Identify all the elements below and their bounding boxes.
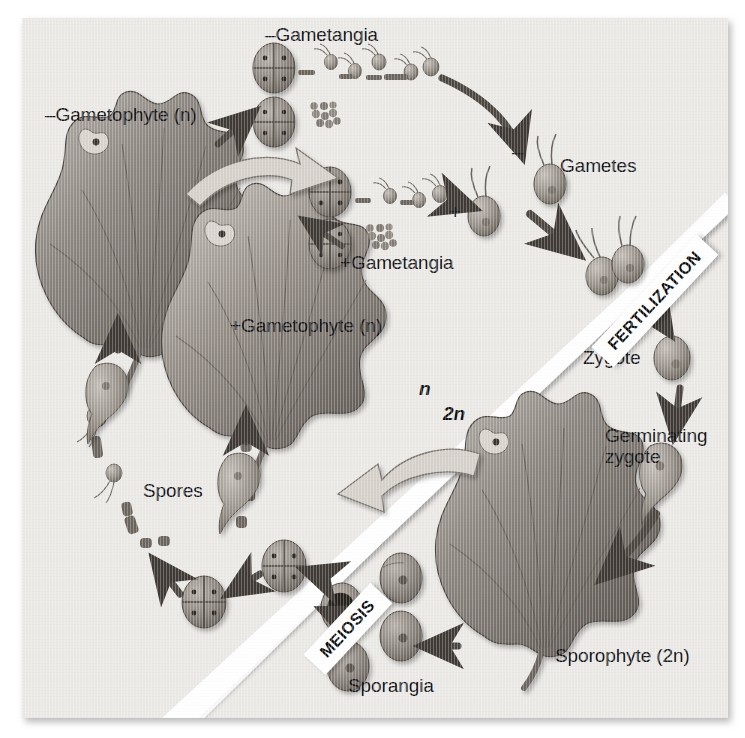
label-minus-gametangia: –Gametangia xyxy=(265,25,378,46)
sign-minus-gamete: – xyxy=(512,140,524,164)
label-germinating-zygote: Germinating zygote xyxy=(605,425,728,468)
ploidy-diploid-2n: 2n xyxy=(443,403,465,425)
zygote-cell xyxy=(654,336,690,380)
sign-plus-gamete: + xyxy=(449,200,461,224)
ploidy-haploid-n: n xyxy=(419,378,431,400)
label-gametes: Gametes xyxy=(560,156,636,177)
label-minus-gametophyte: –Gametophyte (n) xyxy=(45,105,197,126)
label-plus-gametophyte: +Gametophyte (n) xyxy=(230,316,382,337)
label-sporangia: Sporangia xyxy=(348,676,434,697)
label-spores: Spores xyxy=(143,481,203,502)
diagram-plate: –Gametangia –Gametophyte (n) +Gametangia… xyxy=(22,18,728,718)
label-sporophyte: Sporophyte (2n) xyxy=(555,646,690,667)
label-plus-gametangia: +Gametangia xyxy=(340,253,454,274)
germinating-spores xyxy=(86,363,128,444)
life-cycle-figure: –Gametangia –Gametophyte (n) +Gametangia… xyxy=(0,0,745,738)
minus-gametangia-cells xyxy=(253,43,439,147)
